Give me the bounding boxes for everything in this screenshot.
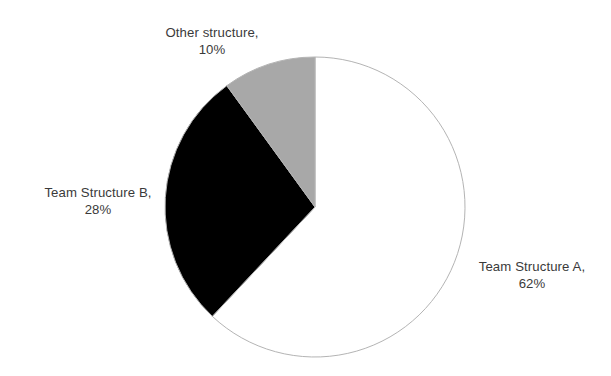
pie-slice-group: [165, 57, 465, 357]
pie-label-team-structure-a-value: 62%: [452, 275, 611, 292]
pie-label-other-structure-name: Other structure,: [122, 24, 302, 41]
pie-label-team-structure-b: Team Structure B, 28%: [8, 184, 188, 218]
pie-label-other-structure: Other structure, 10%: [122, 24, 302, 58]
pie-label-team-structure-b-name: Team Structure B,: [8, 184, 188, 201]
pie-label-other-structure-value: 10%: [122, 41, 302, 58]
chart-canvas: Other structure, 10% Team Structure B, 2…: [0, 0, 611, 376]
pie-label-team-structure-b-value: 28%: [8, 201, 188, 218]
pie-label-team-structure-a: Team Structure A, 62%: [452, 258, 611, 292]
pie-label-team-structure-a-name: Team Structure A,: [452, 258, 611, 275]
